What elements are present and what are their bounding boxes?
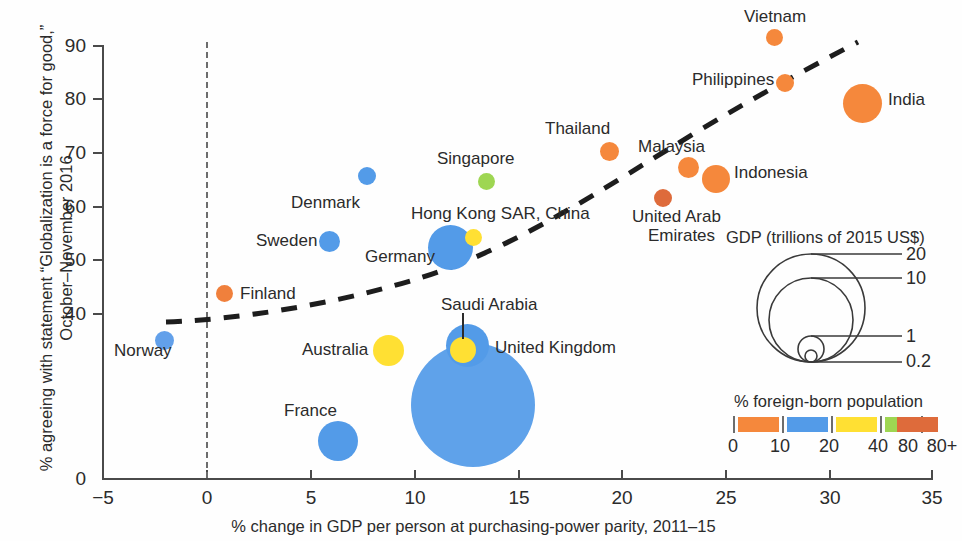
x-tick-label-0: 0 — [177, 488, 237, 507]
zero-reference-line — [206, 42, 208, 478]
label-hong-kong: Hong Kong SAR, China — [411, 205, 590, 222]
label-singapore: Singapore — [437, 150, 515, 167]
label-thailand: Thailand — [545, 120, 610, 137]
label-france: France — [284, 402, 337, 419]
size-legend-title: GDP (trillions of 2015 US$) — [726, 228, 925, 247]
color-swatch-0-10 — [738, 417, 779, 432]
label-united-arab-emirates: United Arab Emirates — [632, 207, 721, 245]
color-legend-sep — [880, 416, 882, 433]
color-legend-tick-40: 40 — [860, 437, 896, 455]
y-axis-title: % agreeing with statement “Globalization… — [36, 18, 76, 478]
x-tick-label-5: 5 — [281, 488, 341, 507]
x-tick-label-35: 35 — [902, 488, 962, 507]
color-swatch-20-40 — [836, 417, 877, 432]
y-tick-label-50: 50 — [48, 250, 86, 269]
size-legend-label-20: 20 — [906, 245, 926, 263]
bubble-indonesia[interactable] — [702, 165, 730, 193]
x-tick — [829, 470, 831, 480]
x-axis-title: % change in GDP per person at purchasing… — [0, 517, 947, 536]
label-uae-line2: Emirates — [648, 226, 715, 245]
bubble-india[interactable] — [843, 84, 882, 123]
x-tick-label-25: 25 — [696, 488, 756, 507]
y-tick-label-0: 0 — [48, 469, 86, 488]
label-vietnam: Vietnam — [744, 8, 806, 25]
color-legend-tick-10: 10 — [762, 437, 798, 455]
label-sweden: Sweden — [256, 232, 317, 249]
x-tick-label--5: −5 — [73, 488, 133, 507]
label-united-kingdom: United Kingdom — [495, 339, 616, 356]
label-australia: Australia — [302, 341, 368, 358]
bubble-hong-kong[interactable] — [465, 229, 482, 246]
label-saudi-arabia: Saudi Arabia — [441, 296, 537, 313]
x-tick — [310, 470, 312, 480]
x-tick — [102, 470, 104, 480]
bubble-france[interactable] — [318, 421, 358, 461]
bubble-sweden[interactable] — [319, 231, 340, 252]
y-tick — [93, 152, 103, 154]
y-axis-top-cap — [93, 45, 103, 47]
color-legend-sep — [782, 416, 784, 433]
y-tick-label-40: 40 — [48, 304, 86, 323]
bubble-saudi-arabia[interactable] — [450, 337, 476, 363]
y-tick-label-80: 80 — [48, 89, 86, 108]
color-swatch-80-plus — [897, 417, 938, 432]
bubble-vietnam[interactable] — [766, 29, 783, 46]
label-uae-line1: United Arab — [632, 207, 721, 226]
y-axis-line — [102, 45, 104, 479]
size-legend-label-10: 10 — [906, 269, 926, 287]
label-norway: Norway — [114, 342, 172, 359]
y-tick — [93, 313, 103, 315]
bubble-finland[interactable] — [216, 285, 233, 302]
color-legend-title: % foreign-born population — [734, 392, 923, 411]
bubble-denmark[interactable] — [358, 167, 376, 185]
bubble-philippines[interactable] — [776, 74, 794, 92]
x-axis-right-cap — [931, 470, 933, 480]
label-malaysia: Malaysia — [638, 138, 705, 155]
y-tick-label-90: 90 — [48, 36, 86, 55]
x-tick — [414, 470, 416, 480]
bubble-singapore[interactable] — [478, 173, 495, 190]
bubble-malaysia[interactable] — [678, 157, 699, 178]
label-india: India — [888, 91, 925, 108]
label-indonesia: Indonesia — [734, 164, 808, 181]
bubble-united-arab-emirates[interactable] — [654, 189, 672, 207]
label-germany: Germany — [365, 248, 435, 265]
x-tick-label-20: 20 — [592, 488, 652, 507]
y-tick — [93, 259, 103, 261]
color-swatch-10-20 — [787, 417, 828, 432]
x-tick — [725, 470, 727, 480]
saudi-arabia-leader-line — [462, 313, 464, 339]
y-tick — [93, 206, 103, 208]
color-legend-tick-0: 0 — [718, 437, 748, 455]
color-legend-sep — [831, 416, 833, 433]
color-legend-tick-80: 80 — [893, 437, 923, 455]
color-legend-sep — [733, 416, 735, 433]
x-tick-label-15: 15 — [489, 488, 549, 507]
size-legend-label-1: 1 — [906, 327, 916, 345]
y-tick-label-60: 60 — [48, 197, 86, 216]
x-tick-label-30: 30 — [800, 488, 860, 507]
label-finland: Finland — [240, 285, 296, 302]
label-philippines: Philippines — [692, 71, 774, 88]
label-denmark: Denmark — [291, 194, 360, 211]
size-legend-label-0.2: 0.2 — [906, 352, 931, 370]
color-legend-tick-20: 20 — [811, 437, 847, 455]
bubble-thailand[interactable] — [600, 142, 619, 161]
x-tick — [621, 470, 623, 480]
x-tick — [518, 470, 520, 480]
color-legend-tick-80plus: 80+ — [920, 437, 962, 455]
x-tick-label-10: 10 — [385, 488, 445, 507]
bubble-australia[interactable] — [373, 335, 404, 366]
y-tick — [93, 98, 103, 100]
size-legend-circles — [756, 252, 926, 364]
y-tick-label-70: 70 — [48, 143, 86, 162]
